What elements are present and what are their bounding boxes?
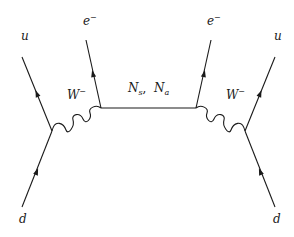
label-sup: −	[90, 13, 97, 22]
label-d-right: d	[273, 213, 281, 225]
label-text: N	[154, 81, 165, 95]
right-u-arrow-icon	[257, 89, 264, 97]
label-sup: −	[79, 87, 86, 96]
label-sep: ,	[143, 81, 154, 95]
label-sup: −	[214, 13, 221, 22]
label-text: d	[273, 212, 281, 226]
label-text: W	[67, 88, 79, 102]
label-sub: a	[165, 88, 170, 97]
label-text: u	[274, 29, 282, 43]
label-e-right: e−	[207, 14, 221, 27]
label-u-right: u	[274, 30, 282, 42]
label-w-right: W−	[226, 88, 245, 101]
right-w-boson-line	[196, 106, 245, 131]
left-u-arrow-icon	[33, 89, 40, 97]
feynman-diagram	[0, 0, 294, 237]
left-w-boson-line	[52, 106, 101, 131]
label-text: d	[19, 212, 27, 226]
label-sup: −	[238, 87, 245, 96]
right-d-quark-line	[245, 131, 275, 207]
label-text: W	[226, 88, 238, 102]
left-d-quark-line	[22, 131, 52, 207]
label-propagator: Ns, Na	[128, 82, 169, 97]
label-text: u	[21, 29, 29, 43]
label-d-left: d	[19, 213, 27, 225]
label-text: N	[128, 81, 139, 95]
label-e-left: e−	[83, 14, 97, 27]
label-u-left: u	[21, 30, 29, 42]
label-w-left: W−	[67, 88, 86, 101]
